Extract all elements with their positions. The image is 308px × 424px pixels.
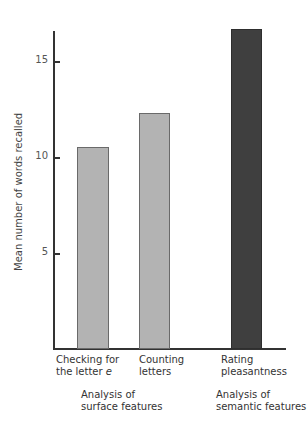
category-label-counting: Countingletters <box>139 354 184 378</box>
y-tick-10 <box>53 157 60 159</box>
category-label-rating: Ratingpleasantness <box>221 354 287 378</box>
bar-counting-letters <box>139 113 170 349</box>
y-tick-label-5: 5 <box>28 246 48 257</box>
y-tick-label-10: 10 <box>28 150 48 161</box>
bar-checking-letter-e <box>77 147 109 349</box>
y-tick-5 <box>53 253 60 255</box>
bar-rating-pleasantness <box>231 29 262 349</box>
y-axis-label: Mean number of words recalled <box>13 113 24 271</box>
category-label-checking: Checking forthe letter e <box>56 354 119 378</box>
y-axis-line <box>53 31 55 349</box>
y-tick-label-15: 15 <box>28 54 48 65</box>
group-label-semantic: Analysis ofsemantic features <box>216 389 306 413</box>
y-tick-15 <box>53 61 60 63</box>
group-label-surface: Analysis ofsurface features <box>81 389 162 413</box>
